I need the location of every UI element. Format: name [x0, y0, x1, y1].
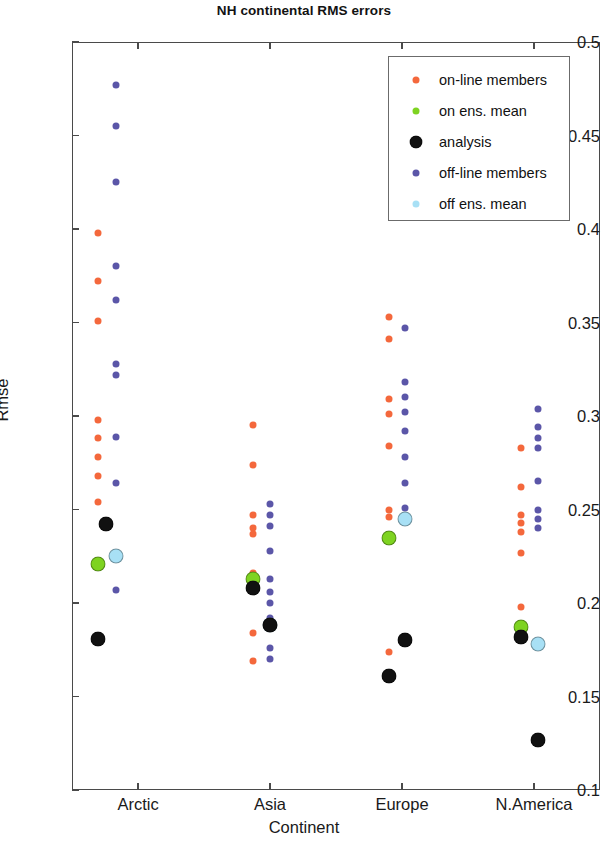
data-point	[534, 435, 541, 442]
data-point	[401, 394, 408, 401]
y-tick-label: 0.45	[568, 126, 600, 145]
data-point	[530, 732, 545, 747]
data-point	[112, 586, 119, 593]
x-tick-label-asia: Asia	[254, 795, 286, 814]
data-point	[95, 435, 102, 442]
legend-label: on-line members	[439, 72, 547, 88]
data-point	[95, 454, 102, 461]
data-point	[95, 317, 102, 324]
data-point	[401, 427, 408, 434]
data-point	[249, 512, 256, 519]
data-point	[517, 549, 524, 556]
y-axis-label-host: Rmse	[18, 0, 19, 845]
chart-legend: on-line memberson ens. mean analysisoff-…	[388, 56, 570, 221]
data-point	[267, 523, 274, 530]
data-point	[385, 648, 392, 655]
data-point	[91, 556, 106, 571]
data-point	[385, 442, 392, 449]
data-point	[517, 603, 524, 610]
data-point	[112, 297, 119, 304]
data-point	[381, 530, 396, 545]
x-tick-mark-bottom	[533, 783, 534, 790]
data-point	[381, 668, 396, 683]
data-point	[112, 123, 119, 130]
data-point	[112, 480, 119, 487]
y-tick-label: 0.1	[577, 781, 600, 800]
x-tick-mark-top	[137, 42, 138, 49]
y-tick-mark	[72, 789, 79, 790]
data-point	[112, 433, 119, 440]
data-point	[530, 637, 545, 652]
y-tick-mark	[72, 41, 79, 42]
x-tick-mark-top	[401, 42, 402, 49]
data-point	[249, 530, 256, 537]
legend-item: analysis	[389, 125, 571, 158]
data-point	[513, 629, 528, 644]
legend-label: off-line members	[439, 165, 547, 181]
legend-item: off-line members	[389, 156, 571, 189]
data-point	[95, 499, 102, 506]
x-tick-label-namerica: N.America	[495, 795, 572, 814]
data-point	[112, 360, 119, 367]
y-tick-mark	[72, 228, 79, 229]
data-point	[517, 519, 524, 526]
data-point	[385, 396, 392, 403]
data-point	[401, 480, 408, 487]
data-point	[534, 444, 541, 451]
data-point	[401, 409, 408, 416]
legend-label: on ens. mean	[439, 103, 527, 119]
data-point	[401, 504, 408, 511]
x-tick-mark-top	[269, 42, 270, 49]
legend-label: off ens. mean	[439, 196, 527, 212]
legend-item: off ens. mean	[389, 187, 571, 220]
data-point	[385, 513, 392, 520]
data-point	[385, 506, 392, 513]
data-point	[534, 478, 541, 485]
legend-label: analysis	[439, 134, 491, 150]
data-point	[385, 313, 392, 320]
y-tick-label: 0.4	[577, 220, 600, 239]
data-point	[245, 581, 260, 596]
y-tick-label: 0.5	[577, 33, 600, 52]
data-point	[91, 631, 106, 646]
y-tick-mark	[72, 602, 79, 603]
chart-figure: NH continental RMS errors 0.10.150.20.25…	[0, 0, 608, 845]
data-point	[108, 549, 123, 564]
data-point	[249, 422, 256, 429]
data-point	[534, 424, 541, 431]
data-point	[95, 416, 102, 423]
data-point	[249, 461, 256, 468]
data-point	[95, 229, 102, 236]
y-tick-label: 0.15	[568, 687, 600, 706]
data-point	[267, 512, 274, 519]
x-tick-mark-bottom	[269, 783, 270, 790]
data-point	[385, 411, 392, 418]
data-point	[267, 600, 274, 607]
data-point	[95, 472, 102, 479]
y-axis-label: Rmse	[0, 378, 12, 421]
x-tick-mark-bottom	[137, 783, 138, 790]
x-tick-mark-bottom	[401, 783, 402, 790]
data-point	[534, 515, 541, 522]
data-point	[263, 618, 278, 633]
data-point	[267, 547, 274, 554]
data-point	[534, 506, 541, 513]
data-point	[397, 633, 412, 648]
data-point	[517, 444, 524, 451]
x-tick-mark-top	[533, 42, 534, 49]
legend-marker-icon	[410, 135, 423, 148]
legend-item: on-line members	[389, 63, 571, 96]
data-point	[401, 379, 408, 386]
x-tick-label-europe: Europe	[375, 795, 428, 814]
data-point	[385, 336, 392, 343]
data-point	[249, 629, 256, 636]
data-point	[99, 517, 114, 532]
legend-marker-icon	[413, 200, 420, 207]
data-point	[267, 656, 274, 663]
data-point	[517, 512, 524, 519]
data-point	[267, 644, 274, 651]
data-point	[267, 500, 274, 507]
x-axis-label: Continent	[0, 818, 608, 837]
data-point	[112, 371, 119, 378]
data-point	[112, 82, 119, 89]
